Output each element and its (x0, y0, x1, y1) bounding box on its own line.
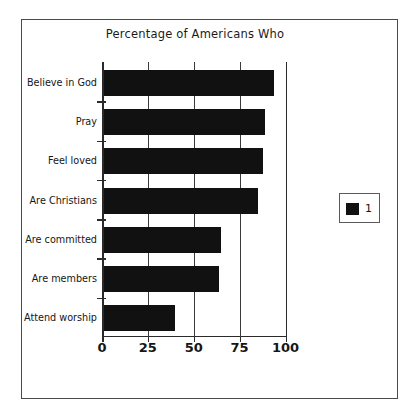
y-axis-tick (97, 180, 106, 182)
x-axis-tick-label: 50 (174, 340, 214, 355)
bar (104, 305, 176, 331)
x-axis-tick-label: 0 (82, 340, 122, 355)
category-label: Are Christians (0, 194, 97, 206)
y-axis-tick (97, 219, 106, 221)
y-axis-tick (97, 101, 106, 103)
category-label: Attend worship (0, 311, 97, 323)
bar (104, 148, 264, 174)
bar (104, 266, 220, 292)
x-axis-tick-label: 75 (220, 340, 260, 355)
x-axis-tick-label: 100 (266, 340, 306, 355)
y-axis-tick (97, 258, 106, 260)
bar (104, 70, 275, 96)
x-axis-tick-label: 25 (128, 340, 168, 355)
chart-page: Percentage of Americans Who Believe in G… (0, 0, 419, 420)
category-label: Are members (0, 272, 97, 284)
bar (104, 188, 258, 214)
legend-entry-label: 1 (365, 202, 372, 215)
bar (104, 109, 266, 135)
bar (104, 227, 222, 253)
y-axis-tick (97, 141, 106, 143)
plot-area (102, 62, 287, 337)
category-label: Believe in God (0, 76, 97, 88)
category-label: Pray (0, 115, 97, 127)
legend[interactable]: 1 (339, 193, 380, 223)
category-axis-labels: Believe in GodPrayFeel lovedAre Christia… (0, 62, 97, 337)
category-label: Feel loved (0, 154, 97, 166)
y-axis-tick (97, 298, 106, 300)
chart-title: Percentage of Americans Who (80, 27, 310, 41)
filled-square-icon (346, 203, 359, 215)
category-label: Are committed (0, 233, 97, 245)
plot-right-spine (286, 62, 288, 337)
